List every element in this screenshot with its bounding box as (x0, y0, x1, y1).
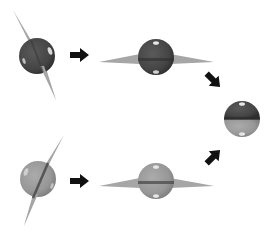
arrow-right-icon (70, 48, 89, 62)
light-sphere-tilted (20, 135, 64, 226)
sphere-band (224, 117, 260, 120)
highlight-icon (153, 165, 159, 169)
arrow-up-right-icon (202, 145, 225, 168)
arrow-down-right-icon (202, 69, 225, 92)
sphere-band (138, 58, 174, 61)
highlight-icon (153, 70, 159, 74)
light-sphere-horizontal (99, 163, 214, 199)
dark-sphere-horizontal (99, 39, 214, 75)
arrow-right-icon (70, 174, 89, 188)
diagram-canvas (0, 0, 276, 235)
light-sphere (20, 161, 56, 197)
combined-sphere (224, 101, 260, 137)
highlight-icon (239, 132, 245, 136)
dark-sphere-tilted (13, 10, 56, 100)
highlight-icon (153, 194, 159, 198)
sphere-band (138, 181, 174, 184)
wedge-blade-lower (24, 194, 38, 226)
highlight-icon (239, 102, 245, 106)
highlight-icon (153, 41, 159, 45)
